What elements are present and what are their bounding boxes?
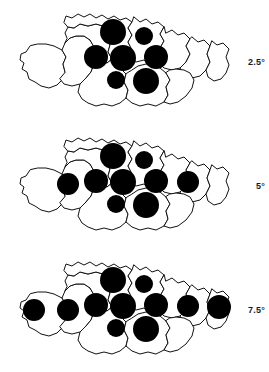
barrel-field-map-5	[8, 124, 233, 248]
panel-label-5: 5°	[233, 181, 265, 191]
activation-dot	[84, 169, 108, 193]
panel-2-5: 2.5°	[0, 0, 269, 124]
activation-dot	[133, 68, 159, 94]
activation-dot	[107, 195, 125, 213]
panel-7-5: 7.5°	[0, 248, 269, 372]
activation-dot	[135, 275, 153, 293]
activation-dot	[177, 171, 199, 193]
activation-dot	[207, 295, 231, 319]
panel-label-2-5: 2.5°	[233, 57, 265, 67]
activation-dot	[144, 169, 168, 193]
activation-dot	[133, 316, 159, 342]
activation-dot	[107, 71, 125, 89]
activation-dot	[57, 299, 79, 321]
panel-label-7-5: 7.5°	[233, 305, 265, 315]
activation-dot	[84, 293, 108, 317]
activation-dot	[177, 295, 199, 317]
activation-dot	[100, 267, 126, 293]
activation-dot	[110, 293, 136, 319]
activation-dot	[144, 293, 168, 317]
barrel-field-map-7-5	[8, 248, 233, 372]
activation-dot	[133, 192, 159, 218]
panel-5: 5°	[0, 124, 269, 248]
activation-dot	[110, 169, 136, 195]
activation-dot	[135, 27, 153, 45]
activation-dot	[107, 319, 125, 337]
activation-dot	[23, 299, 45, 321]
activation-dot	[84, 45, 108, 69]
figure-container: 2.5°	[0, 0, 269, 372]
activation-dot	[135, 151, 153, 169]
activation-dot	[100, 19, 126, 45]
activation-dot	[144, 45, 168, 69]
barrel-field-map-2-5	[8, 0, 233, 124]
activation-dot	[57, 173, 79, 195]
activation-dot	[100, 143, 126, 169]
activation-dot	[110, 45, 136, 71]
